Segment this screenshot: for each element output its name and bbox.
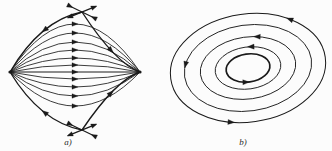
orbit-arrow-outer-bottom	[228, 119, 235, 124]
orbit-ellipse	[224, 51, 271, 85]
orbit-ellipse	[196, 31, 300, 106]
bottom-saddle-arrow-1	[67, 132, 73, 136]
orbit-arrow-3-top	[254, 34, 261, 39]
flow-arrow	[72, 31, 78, 36]
upper-separatrix-right	[82, 12, 140, 72]
top-saddle-arrow-3	[66, 3, 72, 8]
top-saddle-arrow-2	[91, 16, 97, 21]
flow-arrow	[72, 85, 78, 90]
flow-arrow	[72, 40, 78, 45]
flow-arrow	[72, 63, 78, 68]
flow-arrow	[72, 56, 78, 61]
lower-separatrix-left	[10, 72, 82, 130]
flow-arrow	[72, 70, 78, 75]
orbit-ellipse	[179, 17, 318, 120]
orbit-arrow-inner-bottom	[243, 80, 250, 85]
bottom-saddle-arrow-3	[66, 121, 72, 126]
left-saddle-node	[8, 70, 11, 73]
orbit-arrow-outer-right	[287, 18, 294, 23]
orbit-family	[163, 4, 332, 133]
right-saddle-node	[138, 70, 141, 73]
panel-b-label: b)	[239, 137, 247, 147]
phase-portrait-figure: a) b)	[0, 0, 332, 151]
panel-b-diagram	[163, 4, 332, 133]
flow-arrow	[72, 48, 78, 53]
figure-container: a) b)	[0, 0, 332, 151]
bottom-saddle-arrow-0	[91, 124, 97, 128]
flow-arrow	[72, 22, 78, 27]
orbit-arrow-4-top	[248, 44, 255, 49]
flow-arrow	[72, 77, 78, 82]
orbit-arrow-2-left	[184, 61, 189, 68]
flow-arrow	[72, 104, 78, 109]
panel-a-diagram	[8, 3, 141, 139]
orbit-ellipse	[212, 43, 283, 94]
panel-a-label: a)	[64, 137, 72, 147]
top-saddle-arrow-0	[91, 6, 97, 10]
orbit-ellipse	[163, 4, 332, 133]
trajectory-curve	[10, 72, 140, 106]
flow-arrow	[72, 94, 78, 99]
bottom-saddle-arrow-2	[91, 134, 97, 139]
